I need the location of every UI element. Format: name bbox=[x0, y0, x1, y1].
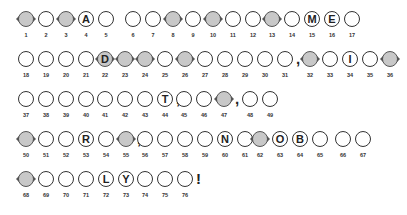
letter-cell[interactable]: 54 bbox=[96, 131, 116, 158]
letter-circle[interactable] bbox=[176, 91, 192, 107]
shaded-letter-circle[interactable] bbox=[252, 131, 268, 147]
letter-circle[interactable]: E bbox=[324, 11, 340, 27]
letter-cell[interactable]: B64 bbox=[290, 131, 310, 158]
letter-circle[interactable] bbox=[157, 51, 173, 67]
letter-circle[interactable] bbox=[177, 131, 193, 147]
letter-cell[interactable]: I34 bbox=[340, 51, 360, 78]
letter-cell[interactable]: 18 bbox=[16, 51, 36, 78]
letter-cell[interactable]: 19 bbox=[36, 51, 56, 78]
letter-cell[interactable]: 29 bbox=[235, 51, 255, 78]
shaded-letter-circle[interactable] bbox=[117, 51, 133, 67]
letter-circle[interactable] bbox=[18, 51, 34, 67]
letter-circle[interactable] bbox=[38, 51, 54, 67]
letter-cell[interactable]: 76 bbox=[175, 171, 195, 198]
letter-cell[interactable]: N60 bbox=[215, 131, 235, 158]
letter-circle[interactable] bbox=[38, 131, 54, 147]
letter-cell[interactable]: 65 bbox=[310, 131, 330, 158]
letter-cell[interactable]: 17 bbox=[342, 11, 362, 38]
shaded-letter-circle[interactable] bbox=[18, 131, 34, 147]
letter-circle[interactable] bbox=[196, 91, 212, 107]
letter-circle[interactable]: Y bbox=[118, 171, 134, 187]
letter-circle[interactable] bbox=[58, 171, 74, 187]
letter-cell[interactable]: 11 bbox=[223, 11, 243, 38]
letter-cell[interactable]: 9 bbox=[183, 11, 203, 38]
letter-circle[interactable] bbox=[58, 51, 74, 67]
shaded-letter-circle[interactable] bbox=[264, 11, 280, 27]
letter-cell[interactable]: 26 bbox=[175, 51, 195, 78]
letter-circle[interactable] bbox=[217, 51, 233, 67]
letter-cell[interactable]: 1 bbox=[16, 11, 36, 38]
letter-circle[interactable] bbox=[177, 171, 193, 187]
letter-circle[interactable] bbox=[145, 11, 161, 27]
letter-cell[interactable]: T44 bbox=[155, 91, 175, 118]
letter-cell[interactable]: 59 bbox=[195, 131, 215, 158]
letter-circle[interactable]: T bbox=[157, 91, 173, 107]
letter-cell[interactable]: 51 bbox=[36, 131, 56, 158]
letter-circle[interactable] bbox=[185, 11, 201, 27]
letter-circle[interactable] bbox=[322, 51, 338, 67]
letter-cell[interactable]: 50 bbox=[16, 131, 36, 158]
letter-cell[interactable]: 7 bbox=[143, 11, 163, 38]
shaded-letter-circle[interactable] bbox=[177, 51, 193, 67]
letter-cell[interactable]: 42 bbox=[115, 91, 135, 118]
letter-cell[interactable]: 56 bbox=[135, 131, 155, 158]
letter-cell[interactable]: 39 bbox=[56, 91, 76, 118]
letter-circle[interactable] bbox=[58, 131, 74, 147]
shaded-letter-circle[interactable] bbox=[18, 11, 34, 27]
letter-cell[interactable]: 68 bbox=[16, 171, 36, 198]
shaded-letter-circle[interactable] bbox=[165, 11, 181, 27]
letter-circle[interactable] bbox=[237, 51, 253, 67]
letter-circle[interactable] bbox=[242, 91, 258, 107]
letter-circle[interactable] bbox=[312, 131, 328, 147]
letter-circle[interactable]: R bbox=[78, 131, 94, 147]
letter-cell[interactable]: 31 bbox=[275, 51, 295, 78]
shaded-letter-circle[interactable] bbox=[58, 11, 74, 27]
letter-cell[interactable]: 47 bbox=[214, 91, 234, 118]
letter-cell[interactable]: L72 bbox=[96, 171, 116, 198]
letter-cell[interactable]: 30 bbox=[255, 51, 275, 78]
letter-circle[interactable]: B bbox=[292, 131, 308, 147]
shaded-letter-circle[interactable] bbox=[118, 131, 134, 147]
letter-cell[interactable]: 71 bbox=[76, 171, 96, 198]
letter-cell[interactable]: 46 bbox=[194, 91, 214, 118]
letter-cell[interactable]: 20 bbox=[56, 51, 76, 78]
shaded-letter-circle[interactable] bbox=[302, 51, 318, 67]
letter-cell[interactable]: Y73 bbox=[116, 171, 136, 198]
letter-cell[interactable]: 37 bbox=[16, 91, 36, 118]
letter-cell[interactable]: 24 bbox=[135, 51, 155, 78]
letter-cell[interactable]: O63 bbox=[270, 131, 290, 158]
letter-circle[interactable] bbox=[245, 11, 261, 27]
letter-circle[interactable] bbox=[355, 131, 371, 147]
letter-cell[interactable]: 41 bbox=[95, 91, 115, 118]
letter-cell[interactable]: 69 bbox=[36, 171, 56, 198]
letter-circle[interactable] bbox=[157, 171, 173, 187]
letter-cell[interactable]: 36 bbox=[380, 51, 400, 78]
letter-circle[interactable] bbox=[98, 131, 114, 147]
letter-cell[interactable]: 8 bbox=[163, 11, 183, 38]
letter-cell[interactable]: A4 bbox=[76, 11, 96, 38]
letter-circle[interactable] bbox=[38, 171, 54, 187]
letter-cell[interactable]: 5 bbox=[96, 11, 116, 38]
letter-circle[interactable] bbox=[277, 51, 293, 67]
letter-circle[interactable] bbox=[225, 11, 241, 27]
letter-circle[interactable] bbox=[284, 11, 300, 27]
letter-cell[interactable]: 45 bbox=[174, 91, 194, 118]
letter-circle[interactable] bbox=[344, 11, 360, 27]
letter-cell[interactable]: 32 bbox=[300, 51, 320, 78]
letter-circle[interactable] bbox=[257, 51, 273, 67]
letter-cell[interactable]: 38 bbox=[36, 91, 56, 118]
letter-cell[interactable]: M15 bbox=[302, 11, 322, 38]
letter-cell[interactable]: 66 bbox=[333, 131, 353, 158]
letter-cell[interactable]: 12 bbox=[243, 11, 263, 38]
letter-circle[interactable] bbox=[117, 91, 133, 107]
letter-circle[interactable] bbox=[18, 91, 34, 107]
letter-cell[interactable]: 43 bbox=[135, 91, 155, 118]
letter-circle[interactable] bbox=[197, 131, 213, 147]
letter-circle[interactable] bbox=[197, 51, 213, 67]
letter-cell[interactable]: 21 bbox=[76, 51, 96, 78]
letter-cell[interactable]: 27 bbox=[195, 51, 215, 78]
letter-circle[interactable] bbox=[58, 91, 74, 107]
letter-cell[interactable]: 33 bbox=[320, 51, 340, 78]
letter-cell[interactable]: D22 bbox=[95, 51, 115, 78]
letter-cell[interactable]: 40 bbox=[76, 91, 96, 118]
